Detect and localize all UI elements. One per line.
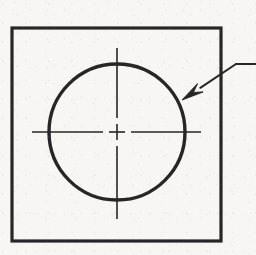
leader-arrowhead-icon [182, 84, 203, 100]
drawing-svg [0, 0, 256, 255]
engineering-drawing-canvas [0, 0, 256, 255]
leader-line-angled [200, 64, 236, 88]
